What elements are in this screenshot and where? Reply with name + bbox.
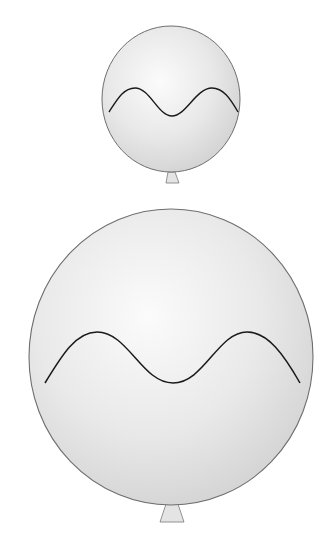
large-balloon-body	[29, 209, 313, 505]
small-balloon-knot	[166, 172, 179, 183]
balloons-figure	[0, 0, 329, 543]
large-balloon-knot	[160, 504, 184, 522]
small-balloon-body	[102, 26, 240, 172]
large-balloon	[29, 209, 313, 522]
small-balloon	[102, 26, 240, 183]
